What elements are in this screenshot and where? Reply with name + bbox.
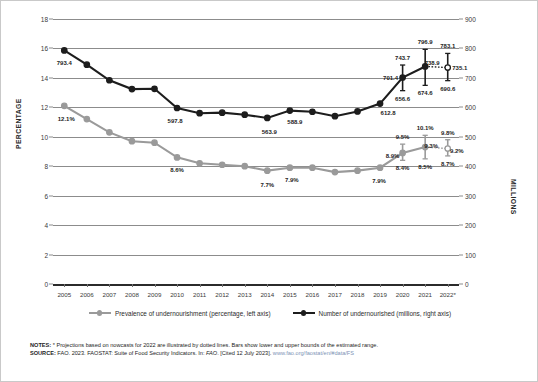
source-url[interactable]: www.fao.org/faostat/en/#data/FS [273, 350, 354, 356]
bound-label-lower: 8.4% [396, 165, 410, 171]
data-label: 701.4 [383, 75, 398, 81]
data-point[interactable] [62, 103, 67, 108]
y-axis-right-tick [459, 284, 463, 285]
y-axis-left-tick-label: 6 [44, 192, 48, 199]
data-point[interactable] [332, 113, 337, 118]
data-point[interactable] [62, 48, 67, 53]
x-axis-tick-label: 2005 [57, 291, 71, 298]
data-label: 793.4 [57, 60, 72, 66]
notes-text: * Projections based on nowcasts for 2022… [51, 342, 378, 348]
data-point[interactable] [84, 116, 89, 121]
source-text: FAO. 2023. FAOSTAT: Suite of Food Securi… [56, 350, 206, 356]
y-axis-right-tick [459, 107, 463, 108]
data-point[interactable] [310, 165, 315, 170]
data-point[interactable] [107, 130, 112, 135]
y-axis-right-tick-label: 800 [465, 45, 476, 52]
x-axis-tick [222, 284, 223, 287]
data-point[interactable] [332, 169, 337, 174]
legend-label-number: Number of undernourished (millions, righ… [319, 310, 451, 317]
data-label: 7.9% [372, 178, 386, 184]
y-axis-right-tick [459, 254, 463, 255]
right-axis-title: MILLIONS [510, 179, 517, 215]
series-line [64, 50, 425, 118]
data-point[interactable] [174, 105, 179, 110]
x-axis-tick [64, 284, 65, 287]
y-axis-right-tick-label: 0 [465, 281, 469, 288]
x-axis-tick [132, 284, 133, 287]
data-label: 588.9 [287, 119, 302, 125]
y-axis-left-tick-label: 8 [44, 163, 48, 170]
data-point[interactable] [355, 168, 360, 173]
data-point[interactable] [287, 165, 292, 170]
x-axis-tick-label: 2022* [440, 291, 456, 298]
y-axis-right-tick-label: 400 [465, 163, 476, 170]
data-point[interactable] [287, 108, 292, 113]
x-axis-tick-label: 2014 [260, 291, 274, 298]
x-axis-tick-label: 2011 [193, 291, 206, 298]
x-axis-tick [267, 284, 268, 287]
data-point[interactable] [129, 86, 134, 91]
x-axis-tick-label: 2008 [125, 291, 139, 298]
x-axis-tick-label: 2020 [396, 291, 410, 298]
data-point[interactable] [265, 168, 270, 173]
data-point[interactable] [197, 161, 202, 166]
data-point[interactable] [152, 86, 157, 91]
bound-label-lower: 690.6 [440, 86, 455, 92]
y-axis-right-tick-label: 200 [465, 222, 476, 229]
data-point[interactable] [310, 109, 315, 114]
y-axis-right-tick [459, 136, 463, 137]
x-axis-tick-label: 2009 [148, 291, 162, 298]
bound-label-lower: 674.6 [418, 90, 433, 96]
data-label: 7.7% [260, 182, 274, 188]
bound-label-upper: 9.5% [396, 134, 410, 140]
x-axis-tick-label: 2006 [80, 291, 94, 298]
data-point[interactable] [219, 110, 224, 115]
data-label: 8.6% [170, 167, 184, 173]
data-point[interactable] [107, 78, 112, 83]
data-point[interactable] [355, 109, 360, 114]
data-point[interactable] [400, 75, 405, 80]
data-point[interactable] [400, 150, 405, 155]
data-point[interactable] [219, 162, 224, 167]
data-point[interactable] [129, 138, 134, 143]
legend-item-number[interactable]: Number of undernourished (millions, righ… [293, 309, 451, 317]
bound-label-upper: 10.1% [417, 125, 434, 131]
data-point[interactable] [445, 65, 450, 70]
plot-area: 0246810121416180100200300400500600700800… [53, 19, 459, 284]
y-axis-left-tick-label: 0 [44, 281, 48, 288]
x-axis-tick [109, 284, 110, 287]
data-label: 738.9 [425, 60, 440, 66]
x-axis-tick [177, 284, 178, 287]
data-point[interactable] [152, 140, 157, 145]
y-axis-left-tick-label: 10 [41, 133, 48, 140]
notes-label: NOTES: [30, 342, 51, 348]
y-axis-left-tick-label: 16 [41, 45, 48, 52]
y-axis-left-tick-label: 14 [41, 74, 48, 81]
data-point[interactable] [377, 101, 382, 106]
x-axis-tick [245, 284, 246, 287]
notes-line: NOTES: * Projections based on nowcasts f… [30, 341, 512, 349]
source-italic: FAO [206, 350, 217, 356]
chart-legend: Prevalence of undernourishment (percenta… [1, 309, 538, 317]
data-label: 8.9% [386, 153, 400, 159]
data-label: 9.2% [450, 148, 464, 154]
data-point[interactable] [265, 115, 270, 120]
data-point[interactable] [242, 112, 247, 117]
x-axis-tick-label: 2013 [238, 291, 252, 298]
x-axis-tick [200, 284, 201, 287]
data-label: 7.9% [285, 177, 299, 183]
x-axis-tick-label: 2010 [170, 291, 184, 298]
chart-figure: PERCENTAGE MILLIONS 02468101214161801002… [0, 0, 538, 382]
data-label: 12.1% [58, 116, 75, 122]
legend-item-prevalence[interactable]: Prevalence of undernourishment (percenta… [89, 309, 271, 317]
data-point[interactable] [174, 155, 179, 160]
y-axis-left-tick-label: 4 [44, 222, 48, 229]
left-axis-title: PERCENTAGE [15, 98, 22, 149]
data-point[interactable] [84, 62, 89, 67]
data-point[interactable] [377, 165, 382, 170]
data-label: 735.1 [452, 65, 467, 71]
y-axis-right-tick-label: 700 [465, 74, 476, 81]
x-axis-tick-label: 2019 [373, 291, 387, 298]
data-point[interactable] [197, 111, 202, 116]
data-point[interactable] [242, 164, 247, 169]
